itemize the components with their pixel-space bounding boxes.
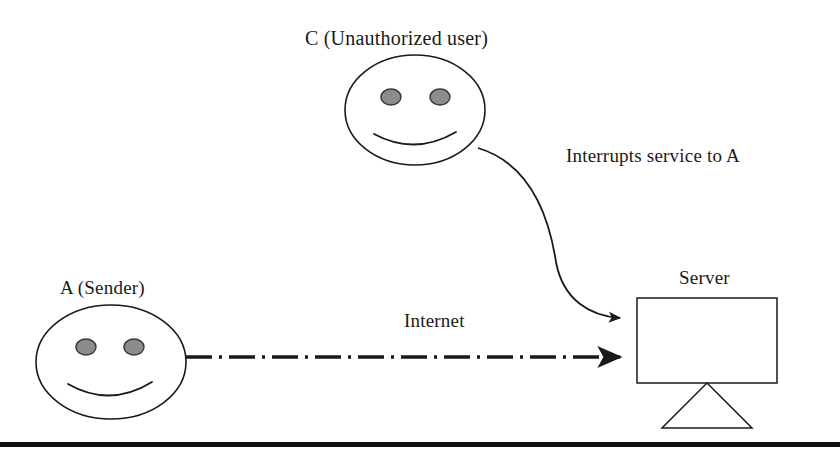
node-server <box>637 298 777 428</box>
diagram-canvas: C (Unauthorized user) A (Sender) Server … <box>0 0 840 464</box>
attacker-face-outline <box>345 55 485 165</box>
attacker-right-eye-icon <box>430 89 450 105</box>
connection-attack-link <box>478 148 620 318</box>
diagram-graphics <box>0 0 840 464</box>
node-sender <box>36 305 186 419</box>
server-stand-icon <box>662 383 752 428</box>
server-label: Server <box>679 267 730 289</box>
attacker-label: C (Unauthorized user) <box>305 27 488 50</box>
server-screen <box>637 298 777 383</box>
sender-label: A (Sender) <box>60 277 145 299</box>
sender-right-eye-icon <box>124 339 144 355</box>
bottom-divider <box>0 442 840 447</box>
sender-face-outline <box>36 305 186 419</box>
internet-connection-label: Internet <box>404 310 465 332</box>
attacker-left-eye-icon <box>381 89 401 105</box>
attack-connection-label: Interrupts service to A <box>566 145 740 167</box>
node-attacker <box>345 55 485 165</box>
sender-left-eye-icon <box>76 339 96 355</box>
